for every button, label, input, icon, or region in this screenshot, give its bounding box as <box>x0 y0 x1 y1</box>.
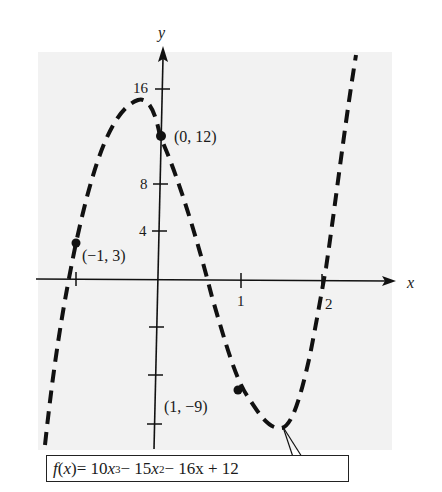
formula-x3: x <box>107 459 115 479</box>
point-label-1-neg9: (1, −9) <box>164 399 208 415</box>
formula-eq: = 10 <box>77 459 108 479</box>
tick-label-4: 4 <box>139 224 147 239</box>
point-1-neg9 <box>234 386 243 395</box>
formula-rest: − 16x + 12 <box>164 459 238 479</box>
x-axis-label: x <box>407 275 414 291</box>
tick-label-2: 2 <box>325 297 333 312</box>
point-label-0-12: (0, 12) <box>174 129 217 145</box>
tick-label-8: 8 <box>140 177 148 192</box>
tick-label-16: 16 <box>133 81 148 96</box>
formula-x2: x <box>151 459 159 479</box>
formula-minus15: − 15 <box>121 459 152 479</box>
y-axis-label: y <box>158 25 165 41</box>
formula-label: f(x) = 10x3 − 15x2 − 16x + 12 <box>46 455 349 482</box>
formula-paren: (x) <box>58 459 77 479</box>
point-0-12 <box>156 131 166 141</box>
point-label-neg1-3: (−1, 3) <box>82 248 126 264</box>
tick-label-1: 1 <box>237 294 245 309</box>
function-graph <box>0 0 442 492</box>
point-neg1-3 <box>72 239 81 248</box>
